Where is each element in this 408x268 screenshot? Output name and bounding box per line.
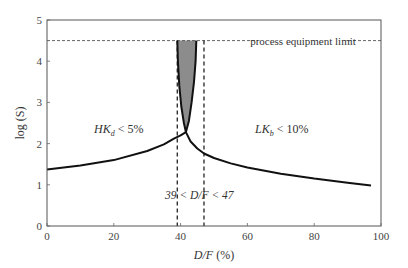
x-tick-label: 60 [242,230,254,242]
df-range-label: 39 < D/F < 47 [164,189,235,201]
hk-constraint-label: HKd < 5% [93,122,143,138]
y-axis-title: log (S) [13,106,27,139]
hk-constraint-curve [47,41,196,170]
y-tick-label: 2 [37,138,43,150]
y-tick-label: 3 [37,96,43,108]
y-tick-label: 0 [37,220,43,232]
equipment-limit-label: process equipment limit [250,35,356,47]
x-tick-label: 80 [309,230,321,242]
chart: process equipment limit 0204060801000123… [0,0,408,268]
y-tick-label: 4 [37,55,43,67]
x-tick-label: 40 [175,230,187,242]
x-tick-label: 100 [373,230,390,242]
x-tick-label: 20 [108,230,120,242]
axis-ticks: 020406080100012345 [37,14,390,242]
y-tick-label: 5 [37,14,43,26]
x-axis-title: D/F (%) [193,248,234,262]
y-tick-label: 1 [37,179,43,191]
lk-constraint-label: LKb < 10% [254,122,308,138]
constraint-curves [47,41,371,186]
x-tick-label: 0 [44,230,50,242]
lk-constraint-curve [177,41,371,186]
